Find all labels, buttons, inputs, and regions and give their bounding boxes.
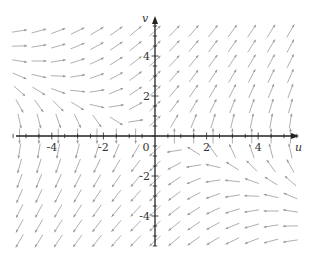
arrowhead-icon	[59, 125, 61, 128]
u-tick-label: -4	[46, 141, 57, 154]
arrowhead-icon	[56, 155, 59, 158]
arrowhead-icon	[192, 129, 195, 132]
v-tick-label: -4	[139, 210, 150, 223]
v-tick-label: 2	[143, 90, 150, 103]
arrowhead-icon	[245, 178, 248, 180]
v-tick-label: -2	[139, 170, 150, 183]
arrowhead-icon	[101, 73, 104, 75]
arrowhead-icon	[252, 99, 254, 102]
u-axis-label: u	[295, 141, 302, 154]
arrowhead-icon	[250, 129, 253, 132]
arrowhead-icon	[212, 129, 215, 132]
vector-field-plot: -4-2024-4-224 u v	[0, 0, 318, 254]
arrowhead-icon	[38, 141, 41, 144]
arrowhead-icon	[291, 84, 293, 87]
arrowhead-icon	[134, 141, 137, 144]
u-axis-arrowhead-icon	[291, 133, 299, 139]
arrowhead-icon	[270, 129, 273, 132]
v-tick-label: 4	[143, 50, 150, 63]
u-tick-label: -2	[98, 141, 109, 154]
arrowhead-icon	[55, 170, 57, 173]
arrowhead-icon	[264, 210, 267, 213]
arrowhead-icon	[173, 129, 176, 132]
arrowhead-icon	[249, 144, 251, 147]
arrowhead-icon	[231, 129, 234, 132]
axes: -4-2024-4-224 u v	[13, 12, 302, 246]
plot-canvas: -4-2024-4-224 u v	[0, 0, 318, 254]
arrowhead-icon	[18, 141, 21, 144]
arrowhead-icon	[115, 141, 118, 144]
v-axis-arrowhead-icon	[152, 16, 158, 24]
arrowhead-icon	[44, 60, 47, 63]
arrowhead-icon	[76, 141, 79, 144]
arrowhead-icon	[289, 129, 292, 132]
u-tick-label: 2	[203, 141, 210, 154]
u-tick-label: 4	[255, 141, 262, 154]
arrowhead-icon	[24, 45, 27, 48]
arrowhead-icon	[63, 75, 66, 78]
arrowhead-icon	[62, 91, 65, 93]
arrowhead-icon	[251, 114, 254, 117]
arrowhead-icon	[206, 196, 209, 198]
arrowhead-icon	[57, 141, 60, 144]
u-tick-label: 0	[143, 141, 150, 154]
arrowhead-icon	[244, 195, 247, 198]
arrowhead-icon	[283, 225, 286, 228]
arrowhead-icon	[17, 185, 19, 188]
v-axis-label: v	[142, 12, 149, 25]
